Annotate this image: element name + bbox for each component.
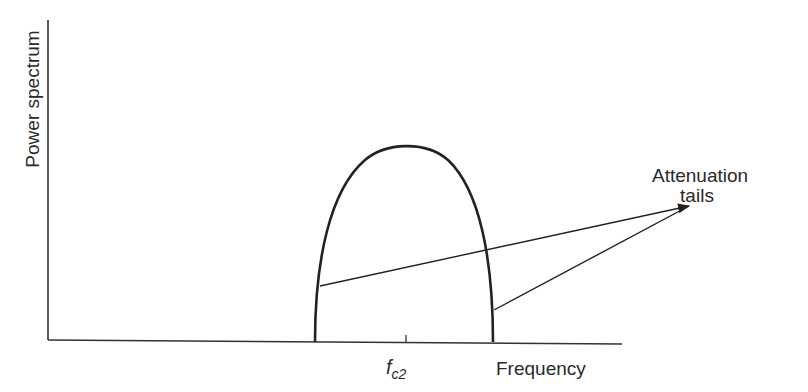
attenuation-annotation: Attenuation tails: [652, 166, 742, 206]
y-axis-label: Power spectrum: [22, 14, 44, 184]
x-axis: [48, 340, 622, 344]
annotation-line-1: Attenuation: [652, 166, 742, 186]
tick-subscript: c2: [392, 366, 407, 382]
annotation-line-2: tails: [652, 186, 742, 206]
attenuation-arrow-right: [494, 206, 689, 310]
fc2-tick-label: fc2: [386, 356, 406, 382]
attenuation-arrow-left: [320, 206, 689, 286]
x-axis-label: Frequency: [496, 358, 586, 380]
power-spectrum-curve: [315, 146, 493, 342]
